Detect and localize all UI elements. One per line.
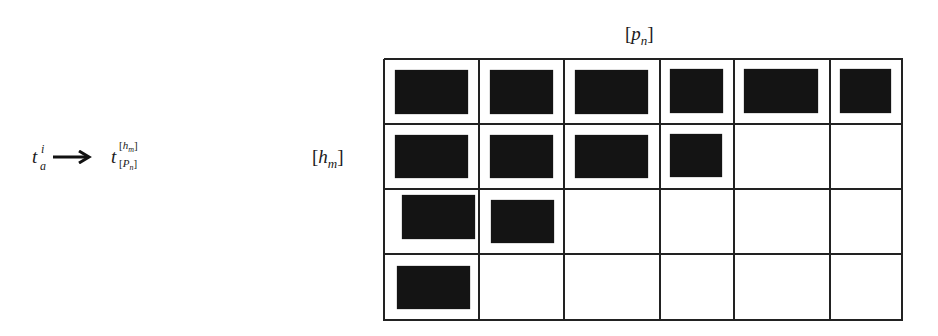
- grid-column-line: [478, 59, 480, 321]
- filled-cell-block: [491, 200, 554, 243]
- grid-column-line: [733, 59, 735, 321]
- grid-column-line: [563, 59, 565, 321]
- grid-column-line: [383, 59, 385, 321]
- grid-row-line: [384, 253, 903, 255]
- filled-cell-block: [670, 69, 723, 113]
- grid-column-line: [901, 59, 903, 321]
- filled-cell-block: [840, 69, 891, 113]
- filled-cell-block: [395, 135, 468, 178]
- filled-cell-block: [670, 134, 722, 177]
- filled-cell-block: [397, 266, 470, 309]
- grid-row-line: [384, 58, 903, 60]
- filled-cell-block: [490, 70, 553, 114]
- filled-cell-block: [575, 135, 648, 178]
- filled-cell-block: [575, 70, 648, 114]
- filled-cell-block: [402, 195, 475, 239]
- grid-row-line: [384, 319, 903, 321]
- filled-cell-block: [744, 69, 818, 113]
- allocation-grid: [0, 0, 938, 336]
- grid-column-line: [829, 59, 831, 321]
- filled-cell-block: [395, 70, 468, 114]
- grid-row-line: [384, 188, 903, 190]
- grid-row-line: [384, 123, 903, 125]
- filled-cell-block: [490, 135, 553, 178]
- grid-column-line: [659, 59, 661, 321]
